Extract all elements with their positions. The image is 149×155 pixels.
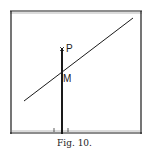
figure-caption: Fig. 10. [0, 138, 149, 148]
label-p: P [66, 43, 73, 54]
figure-10: P M Fig. 10. [0, 0, 149, 155]
label-m: M [63, 73, 71, 84]
diagonal-line [24, 18, 133, 101]
figure-drawing: P M [0, 0, 149, 155]
frame-box [10, 11, 142, 134]
